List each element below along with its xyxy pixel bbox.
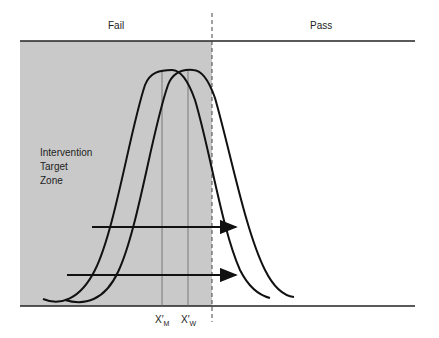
zone-label-line2: Target bbox=[40, 160, 92, 174]
marker-m-label: X′M bbox=[155, 314, 169, 327]
intervention-zone-label: Intervention Target Zone bbox=[40, 146, 92, 188]
zone-label-line1: Intervention bbox=[40, 146, 92, 160]
pass-label: Pass bbox=[310, 20, 332, 31]
fail-label: Fail bbox=[108, 20, 124, 31]
marker-w-label: X′W bbox=[181, 314, 196, 327]
zone-label-line3: Zone bbox=[40, 174, 92, 188]
